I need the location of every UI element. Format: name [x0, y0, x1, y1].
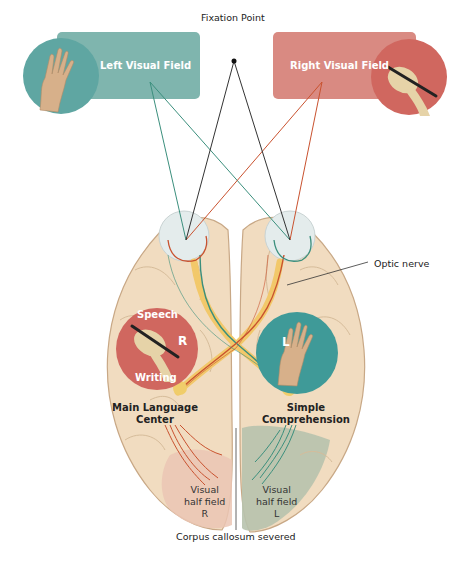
split-brain-diagram: Left Visual Field Right Visual Field Fix…	[0, 0, 473, 567]
left-hemisphere-letter: L	[282, 335, 290, 349]
speech-label: Speech	[137, 309, 178, 320]
fixation-point-label: Fixation Point	[201, 12, 265, 23]
diagram-artwork	[0, 0, 473, 567]
visual-half-field-l-label: Visual half field L	[256, 484, 297, 520]
right-hemisphere-letter: R	[178, 334, 187, 348]
simple-comprehension-label: Simple Comprehension	[262, 402, 350, 426]
right-visual-field-label: Right Visual Field	[290, 60, 389, 71]
fixation-point-dot	[232, 59, 237, 64]
writing-label: Writing	[135, 372, 177, 383]
right-eye	[159, 211, 209, 261]
left-visual-field-label: Left Visual Field	[100, 60, 191, 71]
main-language-center-label: Main Language Center	[112, 402, 198, 426]
visual-half-field-r-label: Visual half field R	[184, 484, 225, 520]
left-eye	[265, 211, 315, 261]
corpus-callosum-label: Corpus callosum severed	[176, 531, 296, 542]
optic-nerve-label: Optic nerve	[374, 258, 429, 269]
